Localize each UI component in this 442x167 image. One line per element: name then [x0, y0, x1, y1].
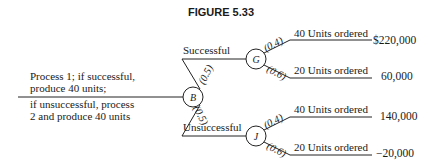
decision-text-2: produce 40 units; — [30, 82, 106, 94]
label-j-20: 20 Units ordered — [294, 141, 368, 153]
node-g-label: G — [252, 54, 259, 65]
label-g-40: 40 Units ordered — [294, 27, 368, 39]
label-j-40: 40 Units ordered — [294, 103, 368, 115]
value-g-20: 60,000 — [381, 70, 413, 83]
node-j-label: J — [254, 131, 259, 142]
decision-text-3: if unsuccessful, process — [30, 98, 134, 110]
prob-g-40: (0.4) — [262, 34, 286, 54]
node-b-label: B — [190, 92, 196, 103]
label-unsuccessful: Unsuccessful — [183, 121, 242, 133]
branch-successful — [182, 59, 246, 89]
prob-j-40: (0.4) — [262, 111, 286, 131]
prob-j-20: (0.6) — [265, 140, 289, 160]
label-g-20: 20 Units ordered — [294, 64, 368, 76]
decision-text-1: Process 1; if successful, — [30, 70, 135, 82]
decision-text-4: 2 and produce 40 units — [30, 110, 130, 122]
value-g-40: $220,000 — [373, 34, 416, 47]
decision-tree: Process 1; if successful, produce 40 uni… — [0, 0, 442, 167]
prob-successful: (0.5) — [196, 63, 216, 87]
value-j-40: 140,000 — [380, 110, 418, 123]
label-successful: Successful — [183, 44, 230, 56]
prob-g-20: (0.6) — [265, 63, 289, 83]
value-j-20: −20,000 — [376, 147, 414, 160]
